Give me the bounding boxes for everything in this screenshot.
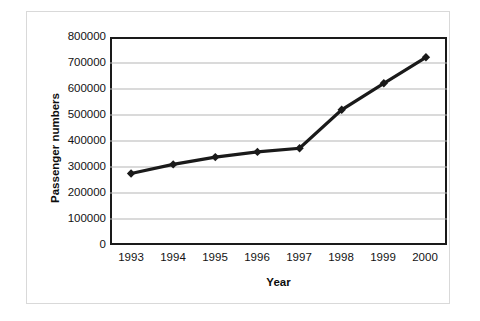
- x-tick-label-1998: 1998: [319, 252, 363, 264]
- x-tick-label-1999: 1999: [361, 252, 405, 264]
- x-axis-tick-labels: 1993 1994 1995 1996 1997 1998 1999 2000: [110, 252, 447, 270]
- chart-figure: 800000 700000 600000 500000 400000 30000…: [0, 0, 480, 321]
- gridlines-horizontal: [110, 63, 447, 219]
- x-tick-label-1996: 1996: [235, 252, 279, 264]
- plot-canvas: [110, 37, 447, 245]
- y-tick-label-0: 0: [44, 239, 106, 251]
- data-point-1996: [253, 148, 261, 156]
- data-point-1993: [127, 169, 135, 177]
- x-axis-title: Year: [110, 276, 447, 288]
- y-axis-title: Passenger numbers: [49, 73, 61, 223]
- y-axis-title-container: Passenger numbers: [38, 40, 58, 240]
- x-tick-label-2000: 2000: [403, 252, 447, 264]
- x-tick-label-1995: 1995: [193, 252, 237, 264]
- x-tick-label-1994: 1994: [151, 252, 195, 264]
- x-tick-label-1997: 1997: [277, 252, 321, 264]
- x-tick-label-1993: 1993: [109, 252, 153, 264]
- data-point-1995: [211, 153, 219, 161]
